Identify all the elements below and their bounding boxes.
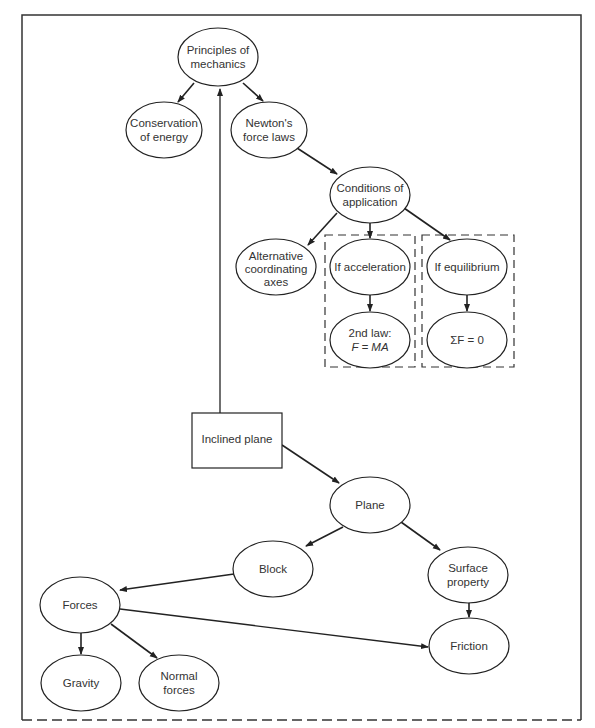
node-principles-of-mechanics: Principles of mechanics [178,28,258,86]
edge-inclined-plane [282,445,339,483]
node-label: Plane [355,499,384,511]
node-label: axes [264,276,289,288]
node-label: Gravity [63,677,100,689]
node-surface-property: Surface property [428,547,508,603]
node-label: 2nd law: [349,327,392,339]
edge-forces-normal [111,624,157,658]
edge-plane-block [306,527,343,546]
edge-block-forces [120,574,234,590]
node-shape [231,102,307,158]
edge-principles-conservation [178,83,194,102]
node-label: Principles of [187,44,250,56]
node-newtons-force-laws: Newton's force laws [231,102,307,158]
node-label: Forces [62,599,97,611]
edge-principles-newton [243,83,263,101]
node-normal-forces: Normal forces [139,655,219,711]
node-formula: ΣF = 0 [450,334,484,346]
node-shape [178,28,258,86]
node-label: application [343,196,398,208]
edge-conditions-alternative [308,213,337,245]
node-formula: F = MA [351,341,389,353]
node-gravity: Gravity [41,655,121,711]
node-label: Newton's [246,117,293,129]
node-shape [126,102,202,158]
node-label: Conservation [130,117,198,129]
node-shape [139,655,219,711]
node-label: If equilibrium [434,261,499,273]
node-label: Block [259,563,287,575]
node-block: Block [233,541,313,597]
node-if-equilibrium: If equilibrium [427,239,507,295]
node-label: Surface [448,562,488,574]
node-alternative-coordinating-axes: Alternative coordinating axes [236,239,316,295]
node-second-law: 2nd law: F = MA [330,312,410,368]
edge-newton-conditions [297,148,337,174]
node-label: forces [163,684,195,696]
node-conditions-of-application: Conditions of application [330,167,410,223]
node-label: property [447,576,489,588]
node-inclined-plane: Inclined plane [192,413,282,468]
node-shape [428,547,508,603]
node-label: force laws [243,131,295,143]
node-label: Friction [450,640,488,652]
node-shape [330,312,410,368]
edge-plane-surface [401,522,440,550]
edge-forces-friction [120,609,428,647]
node-label: Alternative [249,250,303,262]
node-label: If acceleration [334,261,406,273]
node-label: of energy [140,131,188,143]
node-if-acceleration: If acceleration [330,239,410,295]
node-conservation-of-energy: Conservation of energy [126,102,202,158]
node-label: mechanics [191,58,246,70]
node-label: Conditions of [336,182,404,194]
node-label: Normal [160,670,197,682]
concept-map-diagram: Principles of mechanics Conservation of … [0,0,595,728]
node-shape [330,167,410,223]
node-forces: Forces [40,577,120,633]
node-sum-f-zero: ΣF = 0 [427,312,507,368]
node-label: coordinating [245,263,308,275]
node-plane: Plane [330,477,410,533]
node-friction: Friction [429,618,509,674]
node-label: Inclined plane [202,433,273,445]
